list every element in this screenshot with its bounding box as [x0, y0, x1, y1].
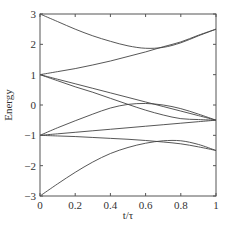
plot-frame — [40, 14, 216, 196]
x-tick-label: 0.4 — [104, 199, 118, 211]
x-axis-label: t/τ — [123, 209, 134, 221]
energy-curve-level-3 — [40, 75, 216, 121]
energy-curves — [40, 14, 216, 196]
energy-curve-level-1 — [40, 14, 216, 48]
y-tick-label: 2 — [31, 38, 37, 50]
y-tick-label: −3 — [24, 190, 36, 202]
x-tick-label: 0.2 — [68, 199, 82, 211]
y-tick-label: 1 — [31, 69, 37, 81]
x-tick-label: 0 — [37, 199, 43, 211]
energy-curve-level-6 — [40, 120, 216, 135]
y-tick-label: −1 — [24, 129, 36, 141]
x-tick-label: 0.8 — [174, 199, 188, 211]
x-tick-label: 0.6 — [139, 199, 153, 211]
energy-curve-level-2 — [40, 29, 216, 75]
energy-chart: 00.20.40.60.81 3210−1−2−3 t/τ Energy — [0, 0, 229, 231]
y-axis-label: Energy — [2, 89, 14, 121]
x-tick-label: 1 — [213, 199, 219, 211]
energy-curve-level-8 — [40, 140, 216, 196]
x-axis-ticks: 00.20.40.60.81 — [37, 14, 219, 211]
y-axis-ticks: 3210−1−2−3 — [24, 8, 216, 202]
y-tick-label: 3 — [31, 8, 37, 20]
energy-curve-level-7 — [40, 135, 216, 150]
y-tick-label: 0 — [31, 99, 37, 111]
y-tick-label: −2 — [24, 160, 36, 172]
